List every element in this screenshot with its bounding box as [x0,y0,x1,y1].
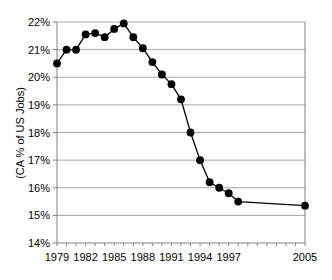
x-tick-label-1982: 1982 [73,251,97,263]
y-tick-label-22: 22% [28,16,50,28]
x-tick-label-1997: 1997 [216,251,240,263]
data-point-1994 [196,156,204,164]
x-tick-label-1988: 1988 [131,251,155,263]
data-point-1981 [72,46,80,54]
y-tick-label-20: 20% [28,71,50,83]
x-tick-label-1979: 1979 [45,251,69,263]
data-point-1992 [177,95,185,103]
data-point-1983 [91,29,99,37]
chart-svg: 14%15%16%17%18%19%20%21%22% 197919821985… [0,0,332,280]
y-tick-label-17: 17% [28,154,50,166]
data-point-1995 [206,178,214,186]
x-tick-label-2005: 2005 [293,251,317,263]
y-tick-label-14: 14% [28,237,50,249]
data-point-1979 [53,60,61,68]
data-point-1988 [139,44,147,52]
data-point-1996 [215,184,223,192]
x-tick-label-1991: 1991 [159,251,183,263]
data-point-1987 [129,33,137,41]
data-point-1989 [148,58,156,66]
y-tick-label-18: 18% [28,127,50,139]
line-chart: 14%15%16%17%18%19%20%21%22% 197919821985… [0,0,332,280]
data-point-1997 [225,189,233,197]
data-point-2005 [301,202,309,210]
x-tick-label-1994: 1994 [188,251,212,263]
data-point-1986 [120,19,128,27]
y-tick-label-21: 21% [28,44,50,56]
data-point-1993 [187,129,195,137]
data-point-1980 [63,46,71,54]
y-tick-label-15: 15% [28,209,50,221]
x-tick-label-1985: 1985 [102,251,126,263]
y-axis-tick-labels: 14%15%16%17%18%19%20%21%22% [28,16,50,249]
data-point-1985 [110,25,118,33]
data-point-1991 [168,80,176,88]
data-point-1982 [82,31,90,39]
y-tick-label-16: 16% [28,182,50,194]
y-axis-title: (CA % of US Jobs) [14,87,26,179]
y-tick-label-19: 19% [28,99,50,111]
data-point-1998 [234,198,242,206]
data-point-1990 [158,71,166,79]
data-point-1984 [101,33,109,41]
